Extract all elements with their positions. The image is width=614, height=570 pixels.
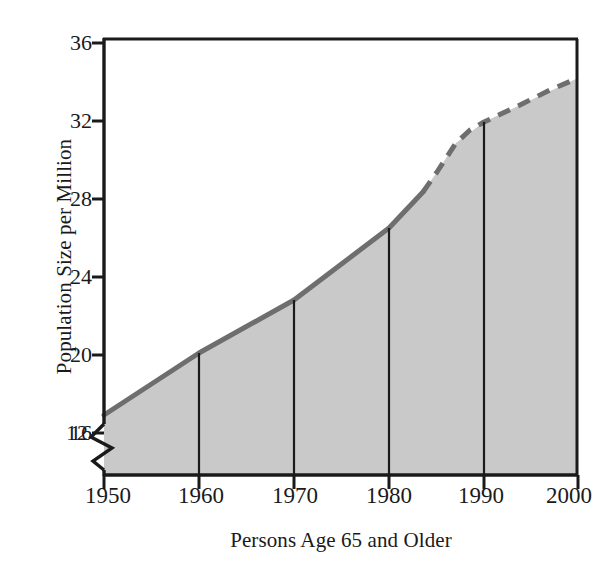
x-tick-label-1960: 1960 <box>178 484 224 507</box>
x-axis-title: Persons Age 65 and Older <box>104 528 578 553</box>
x-tick-label-1970: 1970 <box>272 484 318 507</box>
x-tick-label-1950: 1950 <box>85 484 131 507</box>
x-axis-tick-labels: 1950 1960 1970 1980 1990 2000 <box>0 0 614 570</box>
chart-page: 36 32 28 24 20 16 12 1950 1960 1970 1980… <box>0 0 614 570</box>
x-tick-label-1990: 1990 <box>458 484 504 507</box>
y-axis-title: Population Size per Million <box>44 38 84 475</box>
x-tick-label-2000: 2000 <box>546 484 592 507</box>
x-tick-label-1980: 1980 <box>366 484 412 507</box>
population-area-chart: 36 32 28 24 20 16 12 1950 1960 1970 1980… <box>0 0 614 570</box>
